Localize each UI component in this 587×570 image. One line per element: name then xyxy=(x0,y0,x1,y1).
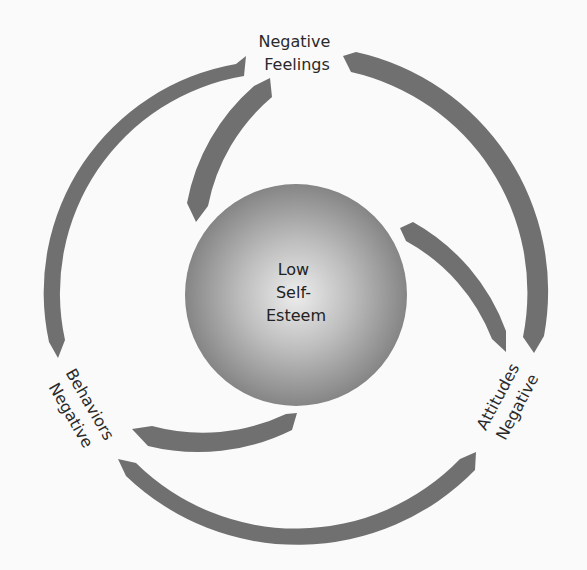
feelings-line-1: Negative xyxy=(259,32,331,51)
center-label-line-3: Esteem xyxy=(266,306,326,325)
arrow-inner-behaviors-to-center xyxy=(132,413,297,452)
node-label-negative-attitudes: Attitudes Negative xyxy=(472,360,542,443)
node-label-negative-feelings: Negative Feelings xyxy=(259,32,336,74)
arrow-outer-attitudes-to-behaviors xyxy=(118,452,476,545)
self-esteem-cycle-diagram: Low Self- Esteem Negative Feelings Attit… xyxy=(0,0,587,570)
arrow-inner-attitudes-to-center xyxy=(400,222,506,352)
diagram-canvas: Low Self- Esteem Negative Feelings Attit… xyxy=(0,0,587,570)
node-label-negative-behaviors: Behaviors Negative xyxy=(43,365,118,454)
center-label-line-2: Self- xyxy=(276,283,311,302)
feelings-line-2: Feelings xyxy=(264,55,330,74)
center-label-line-1: Low xyxy=(278,260,310,279)
